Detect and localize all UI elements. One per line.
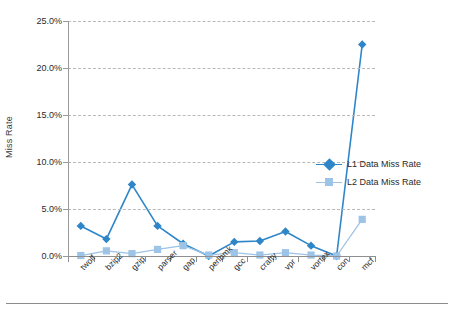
data-point-marker[interactable] bbox=[256, 237, 264, 245]
data-point-marker[interactable] bbox=[102, 235, 110, 243]
data-point-marker[interactable] bbox=[128, 180, 136, 188]
legend-item-l1[interactable]: L1 Data Miss Rate bbox=[316, 155, 421, 173]
y-axis-line bbox=[68, 21, 69, 256]
gridline bbox=[68, 68, 375, 69]
chart-legend: L1 Data Miss Rate L2 Data Miss Rate bbox=[316, 155, 421, 191]
data-point-marker[interactable] bbox=[103, 247, 110, 254]
gridline bbox=[68, 209, 375, 210]
footer-divider bbox=[6, 303, 448, 304]
legend-item-l2[interactable]: L2 Data Miss Rate bbox=[316, 173, 421, 191]
legend-swatch-diamond-icon bbox=[316, 158, 342, 170]
x-tick-mark bbox=[298, 256, 299, 262]
data-point-marker[interactable] bbox=[358, 40, 366, 48]
data-point-marker[interactable] bbox=[154, 246, 161, 253]
legend-label-l2: L2 Data Miss Rate bbox=[347, 177, 421, 187]
gridline bbox=[68, 115, 375, 116]
data-point-marker[interactable] bbox=[230, 238, 238, 246]
legend-swatch-square-icon bbox=[316, 176, 342, 188]
data-point-marker[interactable] bbox=[77, 222, 85, 230]
data-point-marker[interactable] bbox=[359, 216, 366, 223]
x-tick-mark bbox=[68, 256, 69, 262]
series-line-l1 bbox=[81, 45, 362, 257]
legend-label-l1: L1 Data Miss Rate bbox=[347, 159, 421, 169]
data-point-marker[interactable] bbox=[180, 242, 187, 249]
x-tick-mark bbox=[247, 256, 248, 262]
gridline bbox=[68, 21, 375, 22]
data-point-marker[interactable] bbox=[307, 241, 315, 249]
chart-container: Miss Rate 0.0%5.0%10.0%15.0%20.0%25.0% t… bbox=[0, 0, 454, 317]
data-point-marker[interactable] bbox=[281, 227, 289, 235]
